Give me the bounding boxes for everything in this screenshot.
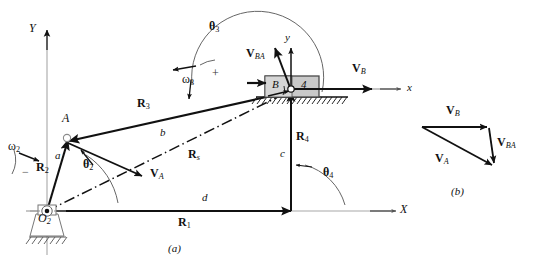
vector-VB-label: VB: [352, 62, 366, 76]
angle-theta2-label: θ2: [83, 158, 93, 172]
vector-R3: [69, 92, 289, 141]
joint-pin-b: [288, 86, 294, 92]
vector-R1-label: R1: [178, 216, 191, 230]
vector-VBA-label: VBA: [246, 47, 265, 61]
vector-R3-label: R3: [137, 97, 150, 111]
panel-a-caption: (a): [168, 243, 181, 254]
omega2-sign: −: [22, 166, 29, 178]
length-b-label: b: [160, 127, 166, 138]
vector-Rs-label: Rs: [188, 148, 200, 162]
vector-VA: [68, 143, 142, 176]
panel-b-caption: (b): [451, 186, 464, 197]
vector-R2-label: R2: [36, 161, 49, 175]
panel-b-vector-VB-label: VB: [446, 104, 460, 118]
length-d-label: d: [202, 192, 208, 203]
length-c-label: c: [280, 148, 285, 159]
velocity-polygon: [422, 127, 494, 165]
angle-theta4-arc: [296, 165, 345, 205]
point-a-label: A: [62, 112, 69, 124]
joint-pin-a: [63, 134, 70, 141]
point-o2-letter: O: [38, 211, 47, 225]
slider-number-label: 4: [301, 79, 307, 90]
length-a-label: a: [55, 150, 61, 161]
omega3-label: ω3: [182, 73, 194, 87]
point-b-label: B: [272, 79, 279, 90]
local-y-axis-label: y: [285, 32, 290, 43]
diagram-canvas: [0, 0, 533, 263]
omega3-sign: +: [212, 67, 219, 79]
vector-R4-label: R4: [296, 130, 309, 144]
local-x-axis-label: x: [407, 82, 412, 93]
angle-theta3-label: θ3: [209, 20, 219, 34]
omega2-label: ω2: [8, 140, 20, 154]
panel-b-vector-VA-label: VA: [435, 152, 449, 166]
vector-VA-label: VA: [150, 167, 164, 181]
vector-Rs: [47, 91, 290, 211]
global-x-axis-label: X: [400, 203, 407, 215]
figure-container: Y X y x O2 A B 4 R2 R3 R4 R1 Rs VA VB VB…: [0, 0, 533, 263]
angle-theta4-label: θ4: [323, 166, 333, 180]
panel-b-vector-VBA-label: VBA: [497, 136, 516, 150]
point-o2-sub: 2: [47, 217, 51, 226]
global-y-axis-label: Y: [29, 22, 36, 34]
point-o2-label: O2: [38, 212, 51, 226]
